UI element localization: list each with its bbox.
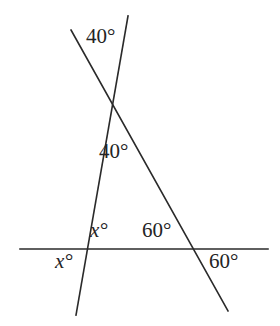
geometry-figure [0,0,280,326]
steep-left-line [76,16,128,315]
angle-label-exterior-60: 60° [209,251,238,272]
angle-label-exterior-x: x° [55,251,73,272]
angle-label-interior-60: 60° [142,220,171,241]
angle-label-top-40: 40° [86,26,115,47]
geometry-diagram: 40° 40° x° x° 60° 60° [0,0,280,326]
transversal-right-line [71,30,228,311]
angle-label-interior-40: 40° [99,141,128,162]
angle-label-interior-x: x° [90,220,108,241]
